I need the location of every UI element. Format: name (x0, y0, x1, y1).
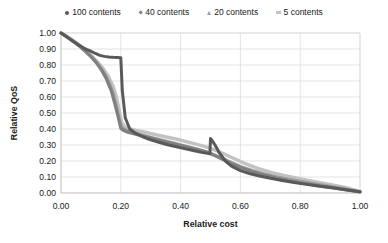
y-tick-label: 0.80 (39, 60, 56, 70)
plot-area: 0.000.100.200.300.400.500.600.700.800.90… (0, 0, 388, 243)
y-tick-label: 0.40 (39, 124, 56, 134)
chart-container: 100 contents 40 contents 20 contents 5 c… (0, 0, 388, 243)
y-tick-label: 0.90 (39, 44, 56, 54)
y-tick-label: 0.60 (39, 92, 56, 102)
x-axis-title: Relative cost (183, 219, 237, 229)
x-tick-label: 0.80 (292, 201, 309, 211)
y-tick-label: 0.50 (39, 108, 56, 118)
y-tick-label: 1.00 (39, 28, 56, 38)
chart-svg: 0.000.100.200.300.400.500.600.700.800.90… (0, 0, 388, 243)
y-axis-tick-labels: 0.000.100.200.300.400.500.600.700.800.90… (39, 28, 56, 198)
x-tick-label: 0.20 (112, 201, 129, 211)
y-axis-title: Relative QoS (9, 86, 19, 140)
y-tick-label: 0.30 (39, 140, 56, 150)
y-tick-label: 0.10 (39, 172, 56, 182)
y-tick-label: 0.20 (39, 156, 56, 166)
x-tick-label: 0.00 (53, 201, 70, 211)
y-tick-label: 0.70 (39, 76, 56, 86)
x-tick-label: 0.40 (172, 201, 189, 211)
series-line-100-contents (61, 33, 360, 192)
series-lines (61, 33, 360, 192)
x-axis-tick-labels: 0.000.200.400.600.801.00 (53, 201, 369, 211)
y-tick-label: 0.00 (39, 188, 56, 198)
x-tick-label: 1.00 (352, 201, 369, 211)
x-tick-label: 0.60 (232, 201, 249, 211)
